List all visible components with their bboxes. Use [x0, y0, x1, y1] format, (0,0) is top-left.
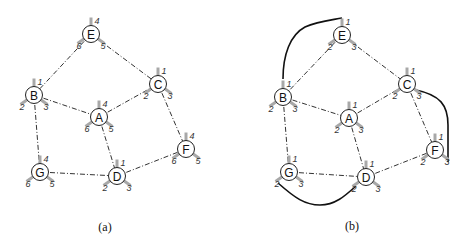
- node-label: C: [403, 78, 412, 92]
- port-label: 1: [410, 66, 415, 76]
- port-label: 2: [142, 91, 148, 101]
- node-label: B: [30, 89, 38, 103]
- port-label: 3: [351, 42, 356, 52]
- node-g: G465: [25, 154, 55, 189]
- port-label: 1: [292, 154, 297, 164]
- node-d: D123: [101, 158, 131, 193]
- node-label: F: [431, 144, 438, 158]
- node-label: E: [87, 28, 95, 42]
- port-label: 4: [102, 99, 107, 109]
- node-label: G: [284, 166, 293, 180]
- port-label: 6: [84, 124, 89, 134]
- port-label: 1: [369, 159, 374, 169]
- node-c: C123: [142, 66, 172, 101]
- port-label: 5: [100, 41, 106, 51]
- node-f: F465: [171, 131, 201, 166]
- wire-G2-D2: [278, 183, 356, 205]
- port-label: 2: [333, 125, 339, 135]
- node-a: A123: [333, 100, 363, 135]
- port-label: 4: [43, 154, 48, 164]
- port-label: 5: [108, 124, 114, 134]
- port-label: 3: [358, 125, 363, 135]
- node-e: E123: [326, 17, 356, 52]
- port-label: 2: [267, 104, 273, 114]
- edge-e-b: [34, 34, 91, 95]
- port-label: 2: [326, 42, 332, 52]
- node-label: B: [279, 91, 287, 105]
- port-label: 3: [298, 179, 303, 189]
- port-label: 6: [76, 41, 81, 51]
- node-e: E465: [76, 16, 106, 51]
- port-label: 3: [375, 184, 380, 194]
- port-label: 3: [43, 102, 48, 112]
- port-label: 4: [189, 131, 194, 141]
- node-b: B123: [18, 77, 48, 112]
- node-d: D123: [350, 159, 380, 194]
- port-label: 1: [37, 77, 42, 87]
- port-label: 2: [419, 157, 425, 167]
- port-label: 2: [273, 179, 279, 189]
- node-label: E: [338, 29, 346, 43]
- port-label: 3: [444, 157, 449, 167]
- node-f: F123: [419, 132, 449, 167]
- port-label: 1: [438, 132, 443, 142]
- node-a: A465: [84, 99, 114, 134]
- node-label: D: [113, 170, 122, 184]
- port-label: 3: [126, 183, 131, 193]
- port-label: 1: [345, 17, 350, 27]
- edge-g-d: [40, 172, 117, 176]
- port-label: 2: [101, 183, 107, 193]
- port-label: 1: [352, 100, 357, 110]
- node-label: C: [154, 78, 163, 92]
- panel-caption: (a): [98, 220, 111, 234]
- port-label: 2: [391, 91, 397, 101]
- edge-g-d: [289, 172, 366, 177]
- port-label: 2: [350, 184, 356, 194]
- port-label: 3: [416, 91, 421, 101]
- wire-B1-E1: [283, 18, 342, 79]
- node-c: C123: [391, 66, 421, 101]
- port-label: 4: [94, 16, 99, 26]
- node-label: A: [345, 112, 353, 126]
- diagram: E465B123C123A465G465D123F465(a)E123B123C…: [0, 0, 469, 242]
- port-label: 5: [49, 179, 55, 189]
- port-label: 6: [171, 156, 176, 166]
- port-label: 1: [161, 66, 166, 76]
- node-label: G: [35, 166, 44, 180]
- port-label: 3: [167, 91, 172, 101]
- node-b: B123: [267, 79, 297, 114]
- panel-a: E465B123C123A465G465D123F465(a): [18, 16, 201, 234]
- port-label: 5: [195, 156, 201, 166]
- panel-caption: (b): [345, 219, 359, 233]
- port-label: 2: [18, 102, 24, 112]
- port-label: 1: [120, 158, 125, 168]
- node-label: D: [362, 171, 371, 185]
- port-label: 3: [292, 104, 297, 114]
- port-label: 1: [286, 79, 291, 89]
- port-label: 6: [25, 179, 30, 189]
- panel-b: E123B123C123A123G123D123F123(b): [267, 17, 449, 233]
- node-label: A: [95, 111, 103, 125]
- node-label: F: [182, 143, 189, 157]
- node-g: G123: [273, 154, 303, 189]
- edge-e-b: [283, 35, 342, 97]
